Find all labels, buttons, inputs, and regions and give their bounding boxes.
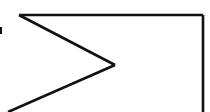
- background-rect: [0, 0, 210, 112]
- line-drawing-svg: [0, 0, 210, 112]
- left-edge-tick-mark: [0, 27, 2, 34]
- figure-canvas: [0, 0, 210, 112]
